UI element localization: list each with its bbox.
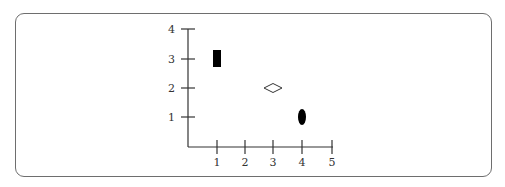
- scatter-chart: 4 3 2 1 1 2 3 4 5: [0, 0, 505, 187]
- y-tick-label: 3: [168, 53, 175, 66]
- x-tick-label: 3: [270, 156, 277, 169]
- y-tick-label: 1: [168, 111, 175, 124]
- x-tick-label: 4: [299, 156, 306, 169]
- y-tick-labels: 4 3 2 1: [168, 23, 175, 124]
- diamond-marker: [264, 84, 282, 93]
- x-tick-label: 5: [329, 156, 336, 169]
- y-tick-label: 2: [168, 82, 175, 95]
- y-tick-label: 4: [168, 23, 175, 36]
- x-tick-labels: 1 2 3 4 5: [214, 156, 336, 169]
- x-tick-label: 1: [214, 156, 221, 169]
- rectangle-marker: [213, 50, 221, 67]
- x-tick-label: 2: [242, 156, 249, 169]
- ellipse-marker: [298, 109, 306, 125]
